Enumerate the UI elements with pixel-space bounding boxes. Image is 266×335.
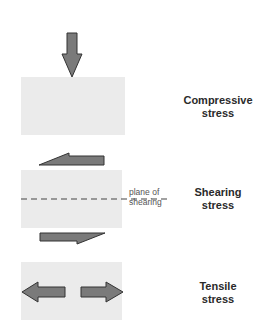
tensile-left-arrow-icon [22, 282, 65, 302]
shear-right-arrow-icon [40, 233, 105, 244]
stress-diagram: Compressive stress plane of shearing She… [0, 0, 266, 335]
tensile-right-arrow-icon [81, 282, 123, 302]
arrows-layer [0, 0, 266, 335]
down-arrow-icon [62, 33, 82, 77]
shear-left-arrow-icon [39, 153, 104, 165]
